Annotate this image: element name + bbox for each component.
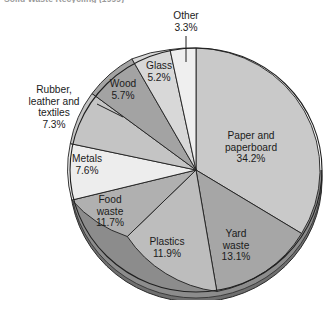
label-other-name: Other xyxy=(150,10,222,22)
label-rubber-value: 7.3% xyxy=(8,119,100,131)
label-yard-line1: Yard xyxy=(214,228,258,240)
label-wood-value: 5.7% xyxy=(100,90,146,102)
label-food-line1: Food xyxy=(86,194,134,206)
label-paper-line2: paperboard xyxy=(208,142,294,154)
label-metals: Metals 7.6% xyxy=(62,153,112,176)
label-other: Other 3.3% xyxy=(150,10,222,33)
label-other-value: 3.3% xyxy=(150,22,222,34)
label-rubber-line3: textiles xyxy=(8,107,100,119)
label-wood-name: Wood xyxy=(100,78,146,90)
label-rubber-leather-and-textiles: Rubber, leather and textiles 7.3% xyxy=(8,84,100,130)
label-metals-name: Metals xyxy=(62,153,112,165)
label-yard-value: 13.1% xyxy=(214,251,258,263)
label-yard-waste: Yard waste 13.1% xyxy=(214,228,258,263)
label-plastics-name: Plastics xyxy=(140,236,194,248)
label-rubber-line1: Rubber, xyxy=(8,84,100,96)
label-paper-value: 34.2% xyxy=(208,153,294,165)
label-plastics: Plastics 11.9% xyxy=(140,236,194,259)
label-paper-and-paperboard: Paper and paperboard 34.2% xyxy=(208,130,294,165)
label-food-waste: Food waste 11.7% xyxy=(86,194,134,229)
label-food-line2: waste xyxy=(86,206,134,218)
label-plastics-value: 11.9% xyxy=(140,248,194,260)
label-rubber-line2: leather and xyxy=(8,96,100,108)
label-paper-line1: Paper and xyxy=(208,130,294,142)
label-food-value: 11.7% xyxy=(86,217,134,229)
pie-chart-screenshot: Solid Waste Recycling (1999) xyxy=(0,0,336,311)
label-wood: Wood 5.7% xyxy=(100,78,146,101)
label-yard-line2: waste xyxy=(214,240,258,252)
label-glass-name: Glass xyxy=(137,60,181,72)
label-metals-value: 7.6% xyxy=(62,165,112,177)
